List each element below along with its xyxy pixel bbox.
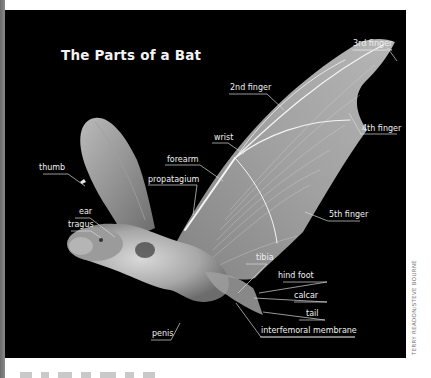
figure-title: The Parts of a Bat <box>61 47 201 63</box>
label-tail: tail <box>306 309 318 318</box>
caption-fragment <box>41 372 49 378</box>
label-penis: penis <box>152 329 173 338</box>
label-thumb: thumb <box>39 163 65 172</box>
fur-dark-patch <box>135 242 155 258</box>
label-forearm: forearm <box>167 155 199 164</box>
label-5th-finger: 5th finger <box>329 210 368 219</box>
label-calcar: calcar <box>294 291 318 300</box>
caption-fragment <box>143 372 155 378</box>
caption-fragment <box>81 372 91 378</box>
label-3rd-finger: 3rd finger <box>353 39 392 48</box>
bat-eye <box>99 238 103 242</box>
label-wrist: wrist <box>214 133 233 142</box>
label-2nd-finger: 2nd finger <box>230 83 271 92</box>
label-ear: ear <box>79 207 92 216</box>
caption-fragment <box>58 372 72 378</box>
label-tragus: tragus <box>68 220 94 229</box>
caption-fragment <box>100 372 116 378</box>
label-propatagium: propatagium <box>148 175 199 184</box>
bat-snout <box>69 237 93 255</box>
label-hind-foot: hind foot <box>278 271 314 280</box>
label-tibia: tibia <box>256 253 274 262</box>
caption-fragment <box>125 372 134 378</box>
label-interfemoral-membrane: interfemoral membrane <box>261 326 357 335</box>
caption-fragment <box>20 372 32 378</box>
photo-credit: TERRY READON/STEVE BOURNE <box>411 260 417 355</box>
clipped-caption <box>20 372 190 378</box>
bat-figure-panel: The Parts of a Bat 3rd finger 2nd finger… <box>5 10 406 358</box>
label-4th-finger: 4th finger <box>362 124 401 133</box>
wing-membrane <box>175 39 395 280</box>
